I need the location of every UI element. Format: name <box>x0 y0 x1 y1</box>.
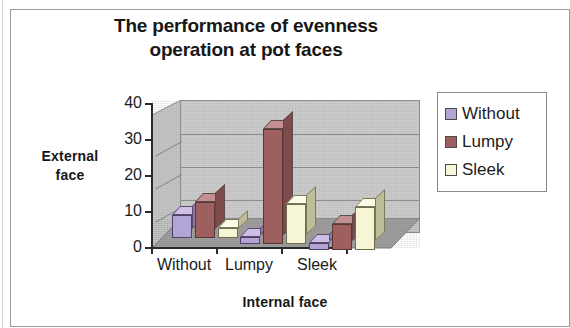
bar-lumpy-without <box>195 202 215 238</box>
y-tick-40 <box>145 103 152 105</box>
bar-without-sleek <box>309 243 329 250</box>
x-tick-0 <box>151 247 153 254</box>
bar-front-face <box>355 207 375 250</box>
chart-legend: Without Lumpy Sleek <box>437 92 547 192</box>
bar-front-face <box>240 237 260 244</box>
gridline-30 <box>181 134 419 135</box>
legend-item-sleek: Sleek <box>445 156 546 184</box>
chart-title-line-1: The performance of evenness <box>36 14 456 38</box>
x-category-label-lumpy: Lumpy <box>218 256 280 274</box>
bar-lumpy-sleek <box>332 224 352 250</box>
y-tick-label-0: 0 <box>106 238 142 256</box>
plot-area <box>152 100 420 248</box>
bar-without-without <box>172 215 192 238</box>
bar-sleek-lumpy <box>286 204 306 244</box>
bar-front-face <box>263 129 283 244</box>
bar-without-lumpy <box>240 237 260 244</box>
y-tick-label-10: 10 <box>106 202 142 220</box>
gridline-20 <box>181 167 419 168</box>
bar-sleek-sleek <box>355 207 375 250</box>
bar-lumpy-lumpy <box>263 129 283 244</box>
x-category-label-sleek: Sleek <box>286 256 348 274</box>
y-tick-20 <box>145 175 152 177</box>
chart-title-line-2: operation at pot faces <box>36 38 456 62</box>
legend-swatch-lumpy-icon <box>445 136 457 148</box>
legend-item-without: Without <box>445 100 546 128</box>
x-category-label-without: Without <box>152 256 216 274</box>
x-tick-2 <box>281 247 283 254</box>
legend-label-sleek: Sleek <box>462 160 505 180</box>
y-tick-label-40: 40 <box>106 94 142 112</box>
bar-front-face <box>218 228 238 238</box>
x-axis-title: Internal face <box>150 294 420 310</box>
y-tick-label-30: 30 <box>106 130 142 148</box>
legend-item-lumpy: Lumpy <box>445 128 546 156</box>
legend-label-lumpy: Lumpy <box>462 132 513 152</box>
bar-front-face <box>309 243 329 250</box>
bar-side-face <box>375 189 385 241</box>
y-tick-labels: 40 30 20 10 0 <box>100 0 142 328</box>
bar-front-face <box>172 215 192 238</box>
legend-swatch-sleek-icon <box>445 164 457 176</box>
y-tick-30 <box>145 139 152 141</box>
bar-sleek-without <box>218 228 238 238</box>
legend-label-without: Without <box>462 104 520 124</box>
chart-title: The performance of evenness operation at… <box>36 14 456 63</box>
legend-swatch-without-icon <box>445 108 457 120</box>
y-tick-label-20: 20 <box>106 166 142 184</box>
bar-front-face <box>286 204 306 244</box>
bar-front-face <box>332 224 352 250</box>
bar-front-face <box>195 202 215 238</box>
x-tick-1 <box>216 247 218 254</box>
scan-edge <box>2 0 3 328</box>
y-tick-10 <box>145 211 152 213</box>
